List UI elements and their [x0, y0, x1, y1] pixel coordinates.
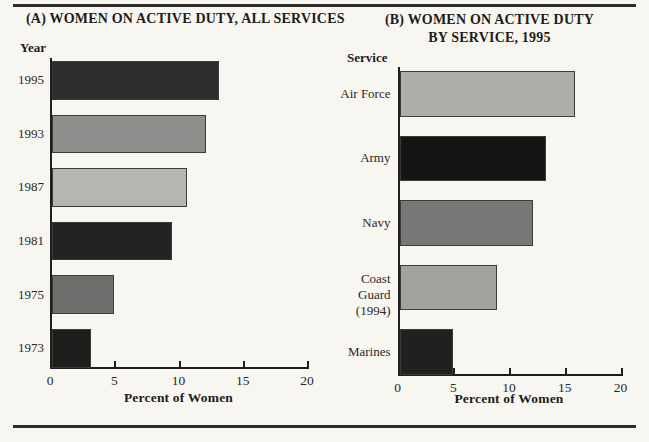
axis-tick — [243, 361, 245, 367]
x-tick-label: 5 — [450, 380, 457, 396]
chart-b-title-line1: (B) WOMEN ON ACTIVE DUTY — [385, 12, 594, 27]
x-tick-label: 0 — [394, 380, 401, 396]
chart-a-title: (A) WOMEN ON ACTIVE DUTY, ALL SERVICES — [26, 11, 345, 27]
chart-b-title: (B) WOMEN ON ACTIVE DUTY BY SERVICE, 199… — [330, 11, 649, 46]
x-tick-label: 10 — [172, 373, 186, 389]
axis-tick — [621, 368, 623, 374]
chart-a-x-axis-label: Percent of Women — [50, 390, 307, 406]
category-label: Navy — [330, 215, 391, 231]
category-label: 1975 — [0, 287, 44, 303]
bar-1987 — [52, 168, 187, 207]
bar-1981 — [52, 222, 172, 261]
chart-b-plot-area — [398, 67, 623, 376]
bar-marines — [400, 329, 454, 375]
axis-tick — [307, 361, 309, 367]
bottom-rule — [13, 425, 636, 428]
bar-army — [400, 136, 546, 182]
category-label: 1987 — [0, 179, 44, 195]
category-label: 1995 — [0, 72, 44, 88]
bar-1993 — [52, 115, 206, 154]
category-label: 1993 — [0, 126, 44, 142]
category-label: 1981 — [0, 233, 44, 249]
bar-1995 — [52, 61, 219, 100]
bar-1973 — [52, 329, 91, 368]
bar-air-force — [400, 71, 575, 117]
bar-1975 — [52, 275, 114, 314]
x-tick-label: 15 — [558, 380, 572, 396]
chart-b-title-line2: BY SERVICE, 1995 — [428, 30, 550, 45]
chart-a-category-axis-label: Year — [20, 40, 46, 56]
x-tick-label: 0 — [47, 373, 54, 389]
x-tick-label: 10 — [502, 380, 516, 396]
chart-a-plot-area — [50, 58, 309, 369]
axis-tick — [453, 368, 455, 374]
category-label: Army — [330, 150, 391, 166]
chart-b-category-axis-label: Service — [347, 50, 387, 66]
axis-tick — [179, 361, 181, 367]
category-label: 1973 — [0, 340, 44, 356]
x-tick-label: 20 — [300, 373, 314, 389]
axis-tick — [565, 368, 567, 374]
bar-coast-guard-1994 — [400, 265, 497, 311]
bar-navy — [400, 200, 534, 246]
x-tick-label: 5 — [111, 373, 118, 389]
chart-b-women-by-service: (B) WOMEN ON ACTIVE DUTY BY SERVICE, 199… — [330, 0, 649, 442]
scanned-figure-page: (A) WOMEN ON ACTIVE DUTY, ALL SERVICES Y… — [0, 0, 649, 442]
category-label: Marines — [330, 344, 391, 360]
x-tick-label: 20 — [614, 380, 628, 396]
axis-tick — [114, 361, 116, 367]
category-label: Coast Guard(1994) — [330, 271, 391, 319]
x-tick-label: 15 — [236, 373, 250, 389]
chart-a-women-all-services: (A) WOMEN ON ACTIVE DUTY, ALL SERVICES Y… — [0, 0, 325, 442]
category-label: Air Force — [330, 86, 391, 102]
axis-tick — [509, 368, 511, 374]
